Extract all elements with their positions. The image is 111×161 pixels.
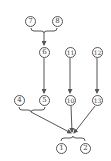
node-2: 2 xyxy=(80,143,91,154)
node-6: 6 xyxy=(39,47,50,58)
node-1: 1 xyxy=(56,143,67,154)
node-10: 10 xyxy=(65,95,76,106)
edge-13-to-12 xyxy=(74,106,95,133)
node-7: 7 xyxy=(25,16,36,27)
brace-1-2 xyxy=(61,136,85,141)
node-8: 8 xyxy=(52,16,63,27)
node-13: 13 xyxy=(92,95,103,106)
edge-45-to-12 xyxy=(31,112,71,133)
edge-10-to-12 xyxy=(71,106,72,132)
node-11: 11 xyxy=(65,47,76,58)
brace-4-5 xyxy=(19,107,45,112)
node-12: 12 xyxy=(92,47,103,58)
node-4: 4 xyxy=(14,95,25,106)
brace-7-8 xyxy=(31,28,57,33)
node-5: 5 xyxy=(39,95,50,106)
